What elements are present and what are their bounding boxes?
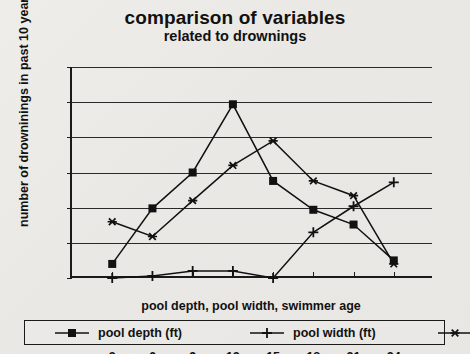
data-point [349, 192, 358, 199]
page-subtitle: related to drownings [0, 29, 470, 44]
x-tick-label: 12 [218, 350, 248, 354]
data-point [269, 177, 277, 185]
legend: pool depth (ft)pool width (ft)swimmer ag… [24, 320, 445, 345]
x-tick-label: 21 [339, 350, 369, 354]
data-point [389, 177, 399, 187]
data-point [309, 206, 317, 214]
data-point [108, 260, 116, 268]
asterisk-marker [438, 326, 470, 340]
data-point [188, 266, 198, 276]
legend-item[interactable]: pool depth (ft) [55, 326, 182, 340]
series-plot [72, 67, 434, 278]
data-point [108, 218, 117, 225]
series-line-0 [112, 104, 394, 264]
plus-marker [250, 326, 284, 340]
x-tick-label: 3 [97, 350, 127, 354]
x-tick-label: 9 [178, 350, 208, 354]
chart-page: comparison of variables related to drown… [0, 0, 470, 354]
x-tick-label: 6 [137, 350, 167, 354]
data-point [309, 178, 318, 185]
data-point [147, 271, 157, 281]
data-point [188, 197, 197, 204]
data-point [269, 138, 278, 145]
data-point [228, 266, 238, 276]
data-point [350, 221, 358, 229]
legend-label: pool width (ft) [293, 326, 376, 340]
title-block: comparison of variables related to drown… [0, 8, 470, 44]
legend-item[interactable]: pool width (ft) [250, 326, 376, 340]
asterisk-marker [450, 329, 459, 336]
data-point [229, 100, 237, 108]
data-point [189, 169, 197, 177]
plus-marker [262, 328, 272, 338]
y-axis-title: number of drowninings in past 10 years [17, 7, 31, 227]
square-marker [55, 326, 89, 340]
data-point [148, 204, 156, 212]
square-marker [68, 329, 76, 337]
data-point [148, 233, 157, 240]
x-tick-label: 15 [258, 350, 288, 354]
x-tick-label: 24 [379, 350, 409, 354]
legend-item[interactable]: swimmer age (yrs) [438, 326, 470, 340]
data-point [228, 162, 237, 169]
x-axis-title: pool depth, pool width, swimmer age [70, 299, 432, 313]
x-tick-label: 18 [298, 350, 328, 354]
legend-label: pool depth (ft) [98, 326, 182, 340]
page-title: comparison of variables [0, 8, 470, 28]
y-tick-mark [67, 278, 72, 279]
plot-area: 051015202530 3691215182124 [70, 67, 432, 278]
series-line-2 [112, 141, 394, 264]
data-point [107, 273, 117, 283]
